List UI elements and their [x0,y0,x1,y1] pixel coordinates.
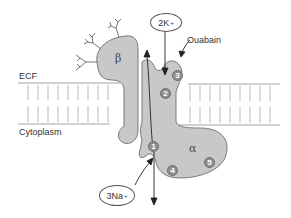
potassium-count: 2K [158,18,169,28]
binding-site-4: 4 [167,165,178,176]
binding-site-2: 2 [160,88,171,99]
ecf-label: ECF [19,72,37,81]
binding-site-3: 3 [172,70,183,81]
sodium-ion-bubble: 3Na+ [99,185,135,206]
potassium-charge: + [170,20,174,26]
sodium-potassium-pump-diagram: ECF Cytoplasm β α Ouabain 2K+ 3Na+ 1 2 3… [0,0,291,218]
sodium-count: 3Na [106,191,123,201]
ouabain-label: Ouabain [187,36,221,45]
binding-site-5: 5 [204,157,215,168]
alpha-subunit-label: α [189,143,196,154]
beta-subunit-label: β [115,53,121,64]
potassium-ion-bubble: 2K+ [150,13,182,32]
binding-site-1: 1 [148,141,159,152]
sodium-charge: + [124,193,128,199]
diagram-graphics [0,0,291,218]
cytoplasm-label: Cytoplasm [19,128,62,137]
